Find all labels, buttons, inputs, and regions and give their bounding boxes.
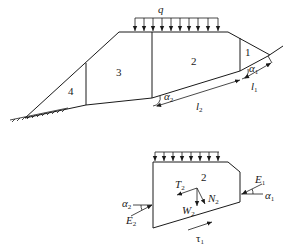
load-label-q: q	[158, 3, 164, 15]
slope-stability-figure: q 4 3 2 1 α2 α1 l2 l1	[0, 0, 287, 245]
embankment-diagram: q 4 3 2 1 α2 α1 l2 l1	[10, 3, 283, 122]
block-label-3: 3	[116, 66, 122, 78]
force-N2-arrow	[197, 188, 205, 204]
angle-label-alpha2-fbd: α2	[122, 197, 132, 211]
distributed-load: q	[135, 3, 218, 31]
force-E2-arrow	[131, 205, 152, 216]
shear-label-tau1: τ1	[196, 232, 204, 245]
block-2-outline	[153, 162, 240, 228]
force-label-T2: T2	[175, 178, 185, 192]
embankment-outline	[25, 32, 270, 118]
force-label-E1: E1	[254, 173, 266, 187]
block-label-4: 4	[68, 85, 74, 97]
length-label-l2: l2	[196, 100, 203, 114]
dimension-l1-tick	[268, 56, 272, 63]
length-label-l1: l1	[251, 80, 258, 94]
angle-label-alpha1-fbd: α1	[265, 189, 275, 203]
free-body-diagram: 2 T2 W2 N2 E1 α1 α2 E2 τ1	[122, 152, 275, 245]
angle-arc-E1	[252, 189, 253, 194]
shear-tau1-arrow	[188, 222, 212, 230]
fbd-distributed-load	[155, 152, 219, 161]
block-label-2: 2	[191, 55, 197, 67]
angle-arc-E2	[141, 205, 142, 210]
force-label-W2: W2	[182, 204, 195, 218]
force-label-E2: E2	[125, 214, 137, 228]
angle-label-alpha1: α1	[249, 62, 259, 76]
block-label-1: 1	[245, 46, 251, 58]
fbd-block-label: 2	[201, 171, 207, 183]
force-label-N2: N2	[207, 192, 219, 206]
